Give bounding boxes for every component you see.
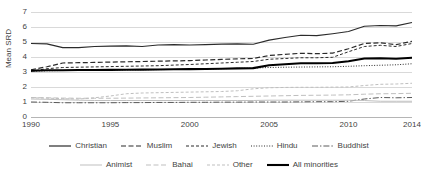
y-tick-label: 2 bbox=[5, 83, 27, 91]
legend-item-animist[interactable]: Animist bbox=[80, 160, 132, 169]
series-line-bahai bbox=[31, 93, 412, 98]
series-line-animist bbox=[31, 99, 412, 101]
legend-label: Animist bbox=[106, 160, 132, 169]
legend-swatch-icon bbox=[267, 161, 289, 169]
x-tick-label: 1990 bbox=[22, 120, 40, 129]
legend-swatch-icon bbox=[80, 161, 102, 169]
legend-swatch-icon bbox=[251, 142, 273, 150]
chart-legend: ChristianMuslimJewishHinduBuddhistAnimis… bbox=[0, 136, 418, 174]
legend-item-other[interactable]: Other bbox=[207, 160, 253, 169]
legend-swatch-icon bbox=[312, 142, 334, 150]
y-tick-label: 3 bbox=[5, 68, 27, 76]
legend-label: Buddhist bbox=[338, 141, 369, 150]
legend-label: Hindu bbox=[277, 141, 298, 150]
legend-item-bahai[interactable]: Bahai bbox=[146, 160, 192, 169]
plot-area bbox=[31, 12, 412, 117]
legend-item-jewish[interactable]: Jewish bbox=[186, 141, 236, 150]
y-tick-label: 7 bbox=[5, 8, 27, 16]
series-line-christian bbox=[31, 23, 412, 48]
legend-swatch-icon bbox=[49, 142, 71, 150]
x-tick-label: 2000 bbox=[181, 120, 199, 129]
legend-swatch-icon bbox=[207, 161, 229, 169]
x-tick-label: 2010 bbox=[340, 120, 358, 129]
legend-label: Christian bbox=[75, 141, 107, 150]
x-axis-ticks: 199019952000200520102014 bbox=[31, 120, 412, 132]
legend-row: AnimistBahaiOtherAll minorities bbox=[0, 155, 418, 174]
series-line-jewish bbox=[31, 44, 412, 72]
legend-label: Other bbox=[233, 160, 253, 169]
legend-item-buddhist[interactable]: Buddhist bbox=[312, 141, 369, 150]
legend-label: Bahai bbox=[172, 160, 192, 169]
y-tick-label: 1 bbox=[5, 98, 27, 106]
legend-row: ChristianMuslimJewishHinduBuddhist bbox=[0, 136, 418, 155]
legend-label: All minorities bbox=[293, 160, 338, 169]
legend-swatch-icon bbox=[186, 142, 208, 150]
series-lines bbox=[31, 12, 412, 117]
legend-item-muslim[interactable]: Muslim bbox=[121, 141, 172, 150]
series-line-muslim bbox=[31, 41, 412, 70]
x-tick-label: 1995 bbox=[101, 120, 119, 129]
y-axis-ticks: 01234567 bbox=[0, 12, 27, 117]
y-tick-label: 4 bbox=[5, 53, 27, 61]
x-axis-line bbox=[31, 117, 412, 118]
legend-item-hindu[interactable]: Hindu bbox=[251, 141, 298, 150]
legend-label: Jewish bbox=[212, 141, 236, 150]
x-tick-label: 2005 bbox=[260, 120, 278, 129]
y-tick-label: 5 bbox=[5, 38, 27, 46]
legend-label: Muslim bbox=[147, 141, 172, 150]
legend-item-christian[interactable]: Christian bbox=[49, 141, 107, 150]
legend-swatch-icon bbox=[121, 142, 143, 150]
y-tick-label: 6 bbox=[5, 23, 27, 31]
legend-item-all-minorities[interactable]: All minorities bbox=[267, 160, 338, 169]
legend-swatch-icon bbox=[146, 161, 168, 169]
x-tick-label: 2014 bbox=[403, 120, 421, 129]
